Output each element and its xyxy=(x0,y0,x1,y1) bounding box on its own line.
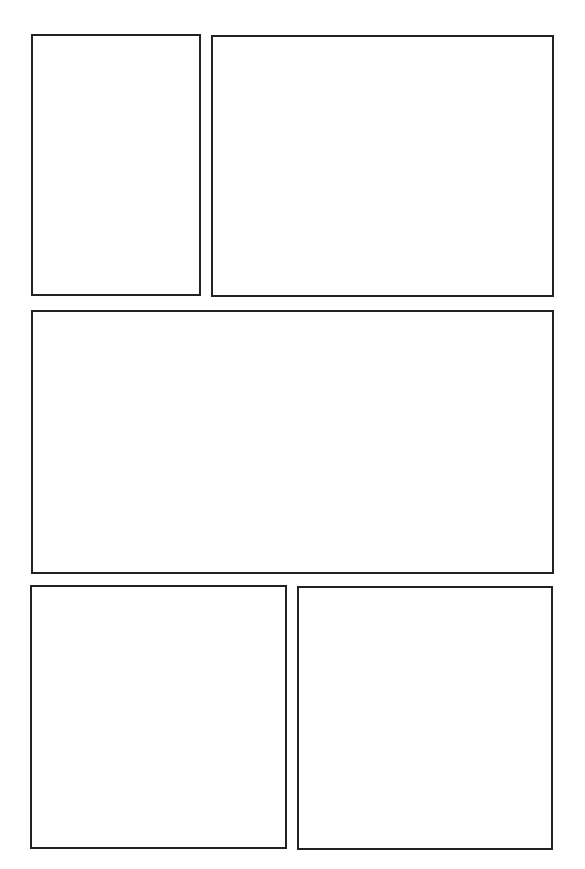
comic-panel-1 xyxy=(31,34,201,296)
comic-panel-5 xyxy=(297,586,553,850)
comic-panel-4 xyxy=(30,585,287,849)
comic-page xyxy=(0,0,585,869)
comic-panel-2 xyxy=(211,35,554,297)
comic-panel-3 xyxy=(31,310,554,574)
